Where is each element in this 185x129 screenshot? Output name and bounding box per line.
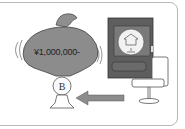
coin-stand-icon <box>50 95 74 108</box>
svg-text:B: B <box>59 81 66 92</box>
arrow-left-icon <box>76 91 124 105</box>
money-bag-icon <box>23 14 98 76</box>
illustration-svg: B <box>0 0 185 129</box>
bitcoin-coin-icon: B <box>53 77 71 95</box>
hard-drive-icon <box>108 18 153 78</box>
money-amount-label: ¥1,000,000- <box>34 47 90 57</box>
